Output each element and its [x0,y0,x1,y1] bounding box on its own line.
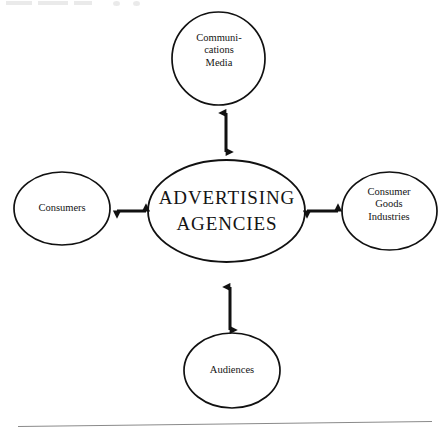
node-advertising-agencies-ellipse [148,160,305,262]
node-audiences-circle [184,333,280,408]
page-bottom-rule [18,422,432,427]
diagram-canvas [0,0,444,436]
scan-artifact [74,1,92,5]
scan-artifact [113,1,120,6]
scan-artifact [6,1,32,5]
scan-artifact [38,1,68,5]
node-communications-media-circle [172,12,265,105]
node-consumer-goods-industries-circle [342,172,437,250]
scan-artifact [133,1,140,6]
node-consumers-circle [14,172,110,245]
